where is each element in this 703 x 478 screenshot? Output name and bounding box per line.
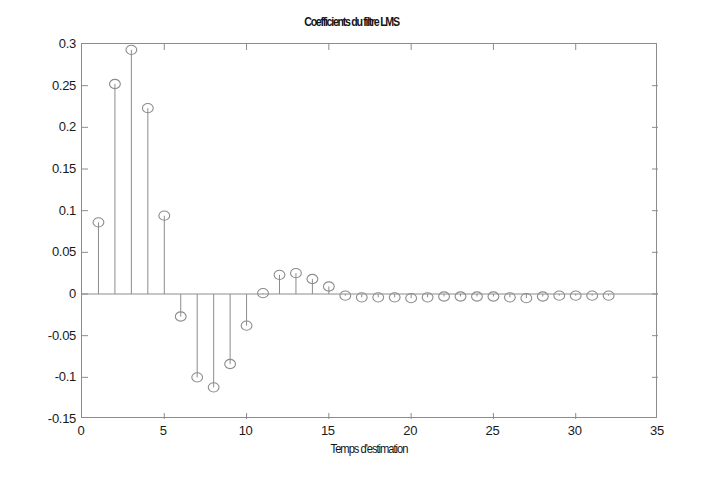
x-tick-label: 5: [143, 423, 183, 438]
x-tick-label: 15: [308, 423, 348, 438]
y-tick-label: 0.15: [10, 161, 76, 176]
x-axis-tick-labels: 05101520253035: [81, 423, 657, 443]
y-axis-tick-labels: -0.15-0.1-0.0500.050.10.150.20.250.3: [4, 43, 76, 418]
y-tick-label: 0.25: [10, 77, 76, 92]
y-tick-label: -0.05: [10, 327, 76, 342]
x-tick-label: 10: [226, 423, 266, 438]
y-tick-label: -0.1: [10, 369, 76, 384]
x-axis-label: Temps d'estimation: [121, 441, 616, 456]
y-tick-label: 0.3: [10, 36, 76, 51]
y-tick-label: 0.05: [10, 244, 76, 259]
stem-plot-svg: [82, 44, 658, 419]
figure-canvas: Coefficients du filtre LMS -0.15-0.1-0.0…: [0, 0, 703, 478]
x-tick-label: 35: [637, 423, 677, 438]
x-tick-label: 0: [61, 423, 101, 438]
stem-series: [93, 45, 614, 392]
chart-title: Coefficients du filtre LMS: [63, 14, 639, 29]
y-tick-label: 0: [10, 286, 76, 301]
x-tick-label: 25: [472, 423, 512, 438]
stem-marker: [258, 289, 269, 298]
x-tick-label: 20: [390, 423, 430, 438]
y-tick-label: 0.1: [10, 202, 76, 217]
plot-area: [81, 43, 657, 418]
y-tick-label: 0.2: [10, 119, 76, 134]
x-tick-label: 30: [555, 423, 595, 438]
